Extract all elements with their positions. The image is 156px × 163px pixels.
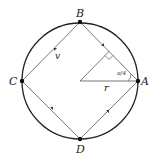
perpendicular-line [80, 52, 109, 82]
right-angle-marker [105, 56, 113, 60]
circle-square-diagram: A B C D v r π/4 [0, 0, 156, 163]
label-velocity: v [55, 51, 60, 61]
label-angle: π/4 [116, 70, 126, 76]
label-b: B [75, 7, 84, 20]
label-c: C [9, 75, 18, 88]
point-d [78, 137, 82, 141]
point-c [20, 79, 24, 83]
point-b [78, 20, 82, 24]
label-d: D [75, 143, 85, 156]
label-a: A [140, 75, 149, 88]
angle-arc [128, 74, 131, 81]
point-a [136, 79, 140, 83]
label-radius: r [104, 82, 110, 93]
